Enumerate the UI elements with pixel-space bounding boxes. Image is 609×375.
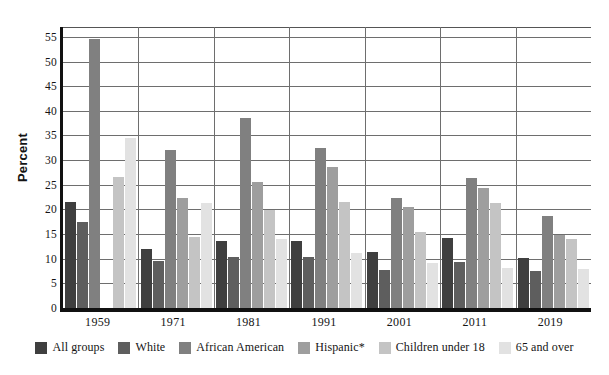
bar (228, 257, 239, 308)
y-axis-tick-label: 30 (17, 154, 57, 166)
bar (367, 252, 378, 308)
bar (89, 39, 100, 308)
y-axis-tick-label: 45 (17, 80, 57, 92)
bar (189, 237, 200, 308)
x-axis-tick-label: 1971 (135, 315, 210, 330)
bar (351, 253, 362, 308)
bar-group (365, 27, 440, 308)
bar (415, 232, 426, 308)
legend-label: All groups (52, 340, 104, 355)
y-axis-tick-label: 40 (17, 105, 57, 117)
y-axis-tick-label: 10 (17, 253, 57, 265)
bar (427, 263, 438, 308)
bar (125, 138, 136, 308)
y-axis-tick-label: 35 (17, 129, 57, 141)
y-axis-tick-label: 20 (17, 203, 57, 215)
bar (216, 241, 227, 308)
bar (454, 262, 465, 308)
legend-label: Children under 18 (396, 340, 485, 355)
bar (518, 258, 529, 308)
bar (201, 203, 212, 308)
y-axis-tick-label: 55 (17, 31, 57, 43)
bar (578, 269, 589, 308)
x-axis-tick-label: 2001 (362, 315, 437, 330)
bar-group (214, 27, 289, 308)
legend-swatch-icon (118, 342, 130, 354)
legend-item: 65 and over (499, 340, 574, 355)
bar (77, 222, 88, 308)
legend-swatch-icon (179, 342, 191, 354)
bar-group (63, 27, 138, 308)
bar (291, 241, 302, 308)
legend-swatch-icon (298, 342, 310, 354)
bar (113, 177, 124, 308)
chart-legend: All groupsWhiteAfrican AmericanHispanic*… (0, 340, 609, 355)
legend-label: 65 and over (516, 340, 574, 355)
y-axis-tick-label: 0 (17, 302, 57, 314)
legend-item: White (118, 340, 165, 355)
bar-chart: Percent 0510152025303540455055 195919711… (0, 0, 609, 375)
bar (391, 198, 402, 308)
bar (442, 238, 453, 308)
bar (141, 249, 152, 308)
plot-inner (63, 27, 591, 308)
legend-swatch-icon (499, 342, 511, 354)
bar (530, 271, 541, 308)
bar (65, 202, 76, 308)
bar-group (289, 27, 364, 308)
bar (339, 202, 350, 308)
x-axis-tick-label: 1959 (60, 315, 135, 330)
bar (240, 118, 251, 308)
x-axis-tick-label: 2011 (437, 315, 512, 330)
legend-swatch-icon (35, 342, 47, 354)
x-axis-tick-label: 1981 (211, 315, 286, 330)
bar (490, 203, 501, 308)
bar (165, 150, 176, 308)
legend-item: Hispanic* (298, 340, 365, 355)
bar (554, 235, 565, 308)
x-axis-tick-label: 1991 (286, 315, 361, 330)
x-axis-tick-label: 2019 (513, 315, 588, 330)
bar (303, 257, 314, 308)
legend-swatch-icon (379, 342, 391, 354)
y-axis-tick-label: 25 (17, 179, 57, 191)
y-axis-tick-label: 5 (17, 277, 57, 289)
legend-label: African American (196, 340, 284, 355)
bar (153, 261, 164, 308)
bar-group (516, 27, 591, 308)
bar (502, 268, 513, 308)
legend-item: African American (179, 340, 284, 355)
bar (315, 148, 326, 308)
bar (566, 239, 577, 308)
bar (327, 167, 338, 308)
bar (478, 188, 489, 308)
bar (252, 182, 263, 308)
y-axis-tick-label: 15 (17, 228, 57, 240)
bar (403, 207, 414, 308)
plot-area (60, 27, 591, 312)
bar (466, 178, 477, 308)
legend-item: Children under 18 (379, 340, 485, 355)
legend-item: All groups (35, 340, 104, 355)
bar-group (440, 27, 515, 308)
legend-label: White (135, 340, 165, 355)
bar (379, 270, 390, 308)
bar (542, 216, 553, 308)
bar (177, 198, 188, 308)
bar (276, 239, 287, 308)
bar-group (138, 27, 213, 308)
legend-label: Hispanic* (315, 340, 365, 355)
y-axis-tick-label: 50 (17, 56, 57, 68)
bar (264, 210, 275, 308)
